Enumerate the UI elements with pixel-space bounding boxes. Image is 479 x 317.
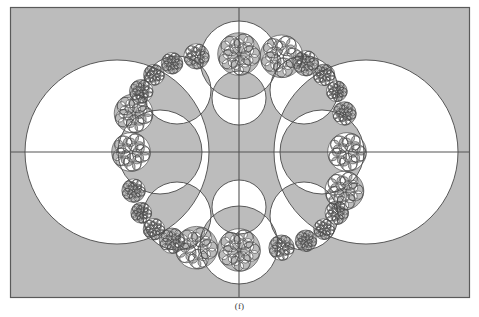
figure-root: (f): [0, 0, 479, 317]
figure-canvas: [0, 0, 479, 317]
figure-caption: (f): [0, 300, 479, 312]
clipped-content: [11, 8, 470, 298]
